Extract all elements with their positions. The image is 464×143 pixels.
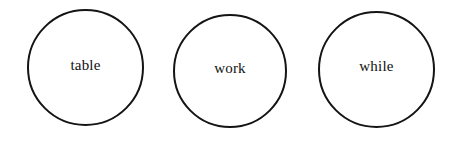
circle-node-2-label: work [214, 61, 246, 76]
circle-node-3-label: while [359, 59, 393, 74]
diagram-canvas: table work while [0, 0, 464, 143]
circle-node-1[interactable]: table [27, 9, 144, 126]
circle-node-1-label: table [70, 58, 100, 73]
circle-node-2[interactable]: work [173, 14, 287, 128]
circle-node-3[interactable]: while [318, 11, 435, 128]
